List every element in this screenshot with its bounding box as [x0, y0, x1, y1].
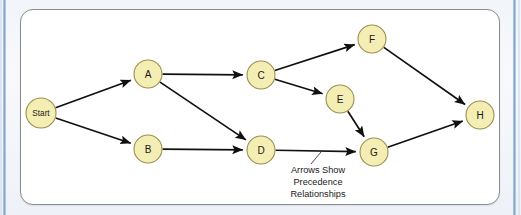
- node-h[interactable]: H: [466, 101, 494, 129]
- edge-b-to-d: [162, 149, 242, 150]
- node-c[interactable]: C: [247, 61, 275, 89]
- edge-e-to-g: [348, 111, 364, 136]
- edge-a-to-c: [162, 74, 242, 75]
- edge-start-to-a: [56, 80, 131, 107]
- annotation-leader-line: [311, 152, 321, 164]
- node-e[interactable]: E: [326, 85, 354, 113]
- node-label-f: F: [369, 34, 375, 45]
- node-start[interactable]: Start: [26, 98, 56, 128]
- annotation-line-1: Arrows Show: [291, 165, 345, 175]
- nodes-layer: StartABCDEFGH: [26, 25, 494, 166]
- edge-f-to-h: [384, 47, 465, 104]
- node-label-d: D: [257, 145, 264, 156]
- node-label-a: A: [145, 69, 152, 80]
- edge-c-to-f: [275, 45, 355, 71]
- edge-start-to-b: [56, 118, 131, 143]
- node-label-e: E: [337, 94, 344, 105]
- node-label-h: H: [476, 110, 483, 121]
- annotation-line-2: Precedence: [293, 177, 342, 187]
- edge-c-to-e: [275, 79, 323, 93]
- node-a[interactable]: A: [134, 60, 162, 88]
- node-label-b: B: [145, 144, 152, 155]
- edge-d-to-g: [275, 150, 355, 151]
- annotation-layer: Arrows Show Precedence Relationships: [290, 152, 346, 199]
- node-label-c: C: [257, 70, 264, 81]
- node-label-start: Start: [32, 109, 50, 118]
- network-diagram: StartABCDEFGH Arrows Show Precedence Rel…: [0, 0, 521, 215]
- node-f[interactable]: F: [358, 25, 386, 53]
- annotation-line-3: Relationships: [290, 189, 346, 199]
- node-g[interactable]: G: [360, 138, 388, 166]
- node-b[interactable]: B: [134, 135, 162, 163]
- node-label-g: G: [370, 147, 378, 158]
- node-d[interactable]: D: [247, 136, 275, 164]
- edge-a-to-d: [160, 82, 246, 140]
- edge-g-to-h: [388, 121, 463, 147]
